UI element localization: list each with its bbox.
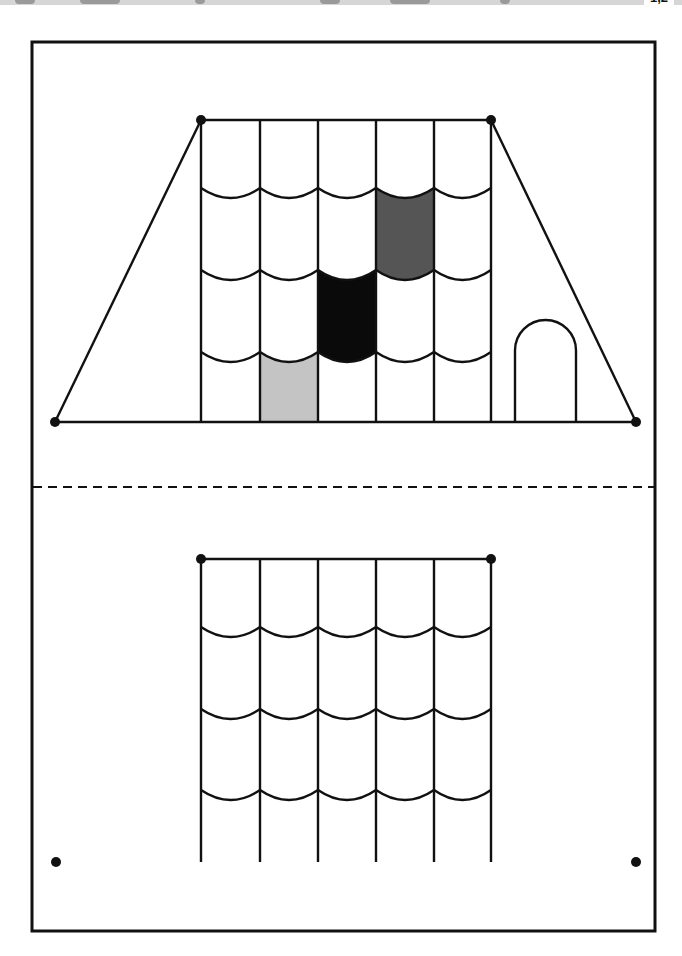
corner-dot — [196, 554, 206, 564]
corner-dot — [196, 115, 206, 125]
tile-arc — [201, 790, 260, 800]
roof-left-edge — [55, 120, 201, 422]
tile-arc — [434, 627, 491, 637]
tile-arc — [434, 352, 491, 362]
tile-arc — [434, 790, 491, 800]
tile-arc — [434, 188, 491, 198]
tile-arc — [434, 709, 491, 719]
tile-arc — [318, 188, 376, 198]
filled-tile — [376, 188, 434, 280]
corner-dot — [51, 857, 61, 867]
tile-arc — [260, 627, 318, 637]
tile-arc — [318, 709, 376, 719]
filled-tile — [318, 270, 376, 362]
tile-arc — [260, 709, 318, 719]
tile-arc — [201, 270, 260, 280]
corner-dot — [486, 554, 496, 564]
tile-arc — [260, 188, 318, 198]
tile-arc — [201, 188, 260, 198]
tile-arc — [376, 352, 434, 362]
tile-arc — [260, 270, 318, 280]
dormer-door — [515, 320, 576, 422]
tile-arc — [376, 790, 434, 800]
corner-dot — [486, 115, 496, 125]
tile-arc — [201, 709, 260, 719]
tile-arc — [376, 627, 434, 637]
roof-right-edge — [491, 120, 636, 422]
tile-arc — [201, 352, 260, 362]
bottom-roof-pattern — [51, 554, 641, 867]
filled-tiles — [260, 188, 434, 422]
tile-arc — [376, 709, 434, 719]
corner-dot — [631, 857, 641, 867]
worksheet-canvas — [0, 0, 682, 956]
tile-arc — [318, 627, 376, 637]
corner-dot — [50, 417, 60, 427]
corner-dot — [631, 417, 641, 427]
tile-arc — [318, 790, 376, 800]
top-roof-pattern — [50, 115, 641, 427]
tile-arc — [201, 627, 260, 637]
tile-arc — [260, 790, 318, 800]
tile-arc — [434, 270, 491, 280]
